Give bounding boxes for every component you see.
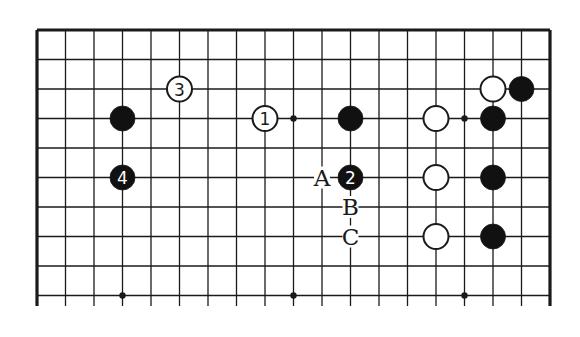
black-stone <box>481 165 506 190</box>
white-stone <box>424 224 449 249</box>
white-stone <box>424 165 449 190</box>
star-point-icon <box>290 115 296 121</box>
star-point-icon <box>119 292 125 298</box>
letter-mark-b: B <box>342 194 359 220</box>
black-stone <box>481 106 506 131</box>
letter-mark-a: A <box>313 165 331 191</box>
star-point-icon <box>461 115 467 121</box>
go-board: ABC 4312 <box>0 0 580 337</box>
black-stone <box>509 77 534 102</box>
stone-move-number: 4 <box>117 168 128 188</box>
white-stone <box>481 77 506 102</box>
stone-move-number: 2 <box>345 168 356 188</box>
star-point-icon <box>290 292 296 298</box>
stone-move-number: 1 <box>260 109 271 129</box>
black-stone <box>110 106 135 131</box>
black-stone <box>481 224 506 249</box>
black-stone <box>338 106 363 131</box>
white-stone <box>424 106 449 131</box>
star-point-icon <box>461 292 467 298</box>
letter-mark-c: C <box>342 224 360 250</box>
stone-move-number: 3 <box>174 80 185 100</box>
